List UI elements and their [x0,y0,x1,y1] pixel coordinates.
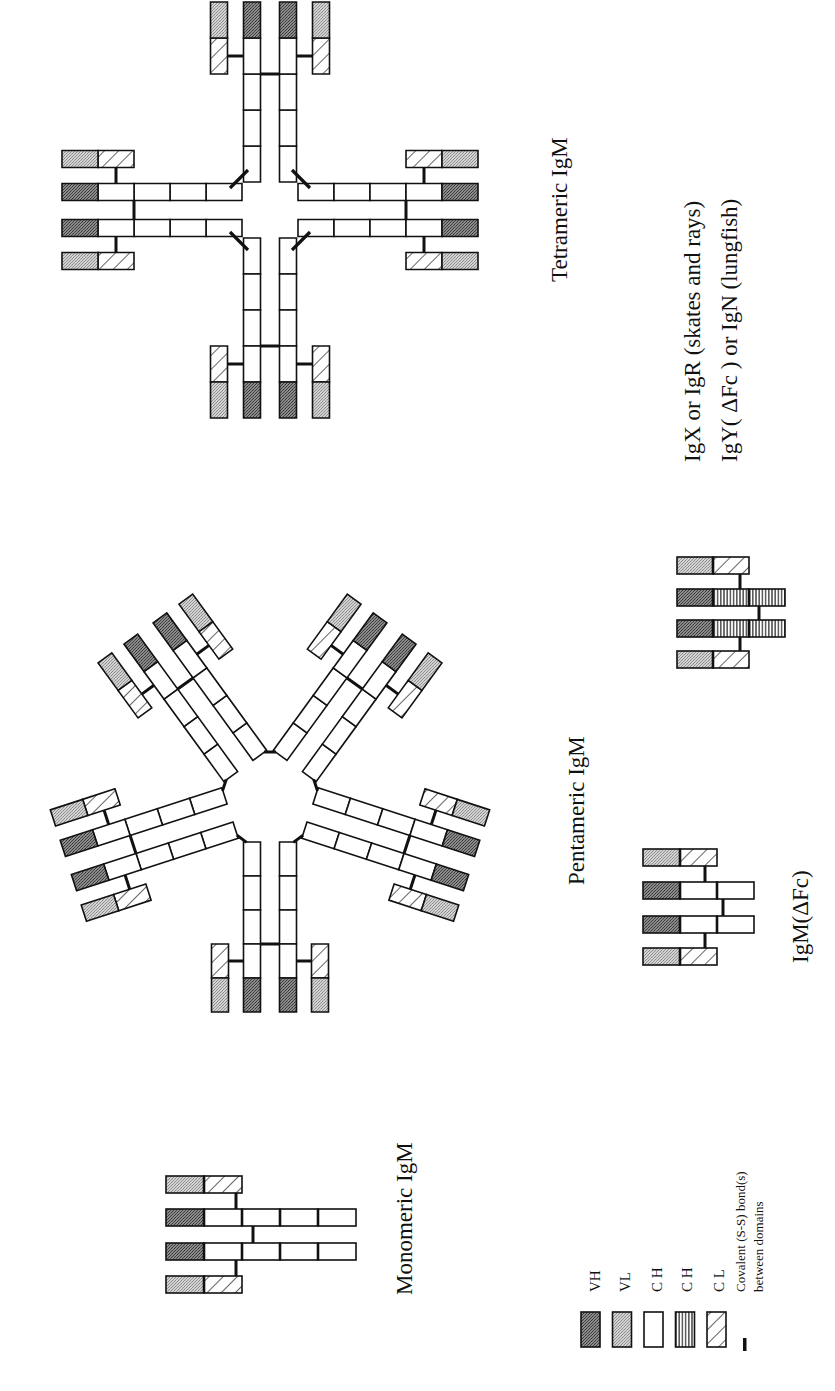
domain-ch [280,274,297,310]
domain-cl [98,151,134,168]
domain-ch [244,74,261,110]
disulfide-bond [431,810,436,824]
domain-ch [204,1243,242,1260]
domain-ch [370,220,406,237]
domain-vl [98,653,132,690]
domain-vh [124,634,158,671]
domain-ch [280,74,297,110]
disulfide-bond [404,835,410,853]
disulfide-bond [125,875,130,889]
domain-ch [157,798,195,825]
domain-ch [280,38,297,74]
legend-label-ss-line1: Covalent (S-S) bond(s) [733,1171,748,1292]
domain-cl [211,38,228,74]
disulfide-bond [130,835,136,853]
domain-ch [170,184,206,201]
domain-vh [382,634,416,671]
igm-subunit [302,788,490,921]
igm-subunit [211,238,330,418]
disulfide-bond [386,685,398,694]
domain-ch [244,944,261,978]
disulfide-bond [410,875,415,889]
domain-ch [345,798,383,825]
domain-ch [168,833,206,860]
domain-ch [244,842,261,876]
domain-ch [334,833,372,860]
domain-vh [442,220,478,237]
domain-ch [244,910,261,944]
domain-cl [204,1276,242,1293]
domain-vl [211,2,228,38]
igm-structures-figure: Monomeric IgM Pentameric IgM IgM(ΔFc) Te… [0,0,835,1391]
domain-vh [442,830,480,857]
legend-label-ss-line2: between domains [751,1201,766,1292]
igm-subunit [212,842,329,1012]
domain-ch [406,184,442,201]
domain-cl [212,944,229,978]
legend-swatch-ss-bond [743,1338,747,1351]
legend-label-ch-striped: C H [679,1267,695,1292]
domain-ch [244,146,261,182]
domain-ch [244,310,261,346]
domain-ch [717,916,754,933]
domain-vh [677,620,713,637]
domain-ch [204,1209,242,1226]
domain-vh [71,864,109,891]
domain-ch [318,1243,356,1260]
domain-vh [280,978,297,1012]
domain-ch [298,184,334,201]
legend-swatch-ch [644,1312,663,1347]
igm-subunit [98,594,267,781]
domain-vh [153,613,187,650]
disulfide-bond [331,645,343,654]
legend-label-cl: C L [711,1269,727,1292]
domain-ch [410,819,448,846]
domain-ch [244,110,261,146]
domain-ch [170,220,206,237]
domain-ch [680,882,717,899]
domain-cl [406,151,442,168]
domain-vh [643,882,680,899]
domain-ch [93,819,131,846]
domain-cl [680,948,717,965]
domain-cl [313,346,330,382]
domain-vl [179,594,213,631]
domain-vh [280,382,297,418]
disulfide-bond [197,645,209,654]
domain-vl [313,2,330,38]
legend-swatch-vh [581,1312,600,1347]
disulfide-bond [347,678,362,689]
domain-cl [713,557,749,574]
domain-ch [717,882,754,899]
domain-vl [327,594,361,631]
legend [581,1312,747,1351]
domain-cs [749,620,785,637]
disulfide-bond [104,810,109,824]
domain-ch [104,854,142,881]
igm-subunit [50,788,238,921]
domain-vl [677,651,713,668]
domain-vl [62,253,98,270]
domain-vh [62,184,98,201]
domain-ch [136,843,174,870]
domain-vl [166,1276,204,1293]
domain-ch [242,1209,280,1226]
igm-subunit [62,151,242,270]
domain-ch [244,274,261,310]
legend-swatch-vl [613,1312,632,1347]
domain-cl [312,944,329,978]
domain-ch [244,876,261,910]
domain-cl [713,651,749,668]
domain-cl [204,1176,242,1193]
domain-vh [62,220,98,237]
igm-subunit [211,2,330,182]
domain-vl [312,978,329,1012]
domain-ch [280,944,297,978]
igx-structure [677,557,785,668]
domain-vl [62,151,98,168]
domain-vh [431,864,469,891]
igm-subunit [298,151,478,270]
domain-vh [677,589,713,606]
domain-vh [643,916,680,933]
domain-ch [244,346,261,382]
